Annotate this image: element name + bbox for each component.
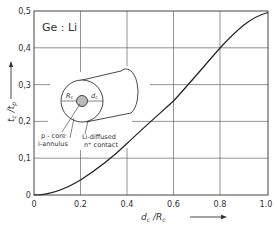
inset-pcore-label: p - core xyxy=(41,132,66,140)
svg-text:0: 0 xyxy=(31,199,36,209)
inset-dc-label: dc xyxy=(91,92,98,100)
arrow-right-icon xyxy=(221,215,227,219)
inset-rc-label: Rc xyxy=(66,92,74,100)
p-core-circle xyxy=(77,96,88,107)
svg-text:dc /Rc: dc /Rc xyxy=(141,212,166,223)
inset-detector-diagram xyxy=(61,69,138,138)
svg-text:0,4: 0,4 xyxy=(18,43,31,53)
svg-text:0.4: 0.4 xyxy=(121,199,134,209)
svg-text:0.6: 0.6 xyxy=(167,199,180,209)
svg-text:0,1: 0,1 xyxy=(18,153,31,163)
x-axis-label: dc /Rc xyxy=(141,212,227,223)
chart-title: Ge : Li xyxy=(42,21,77,34)
svg-text:0.8: 0.8 xyxy=(214,199,227,209)
y-tick-labels: 0 0,1 0,2 0,3 0,4 0,5 xyxy=(18,6,31,200)
chart: Rc dc p - core i-annulus Li-diffused n⁺ … xyxy=(0,0,277,226)
inset-lidiffused-label: Li-diffused xyxy=(82,133,116,141)
svg-text:0: 0 xyxy=(26,190,31,200)
y-axis-label: tc /tp xyxy=(6,61,18,122)
svg-text:0,2: 0,2 xyxy=(18,116,31,126)
svg-text:0.2: 0.2 xyxy=(74,199,87,209)
inset-ncontact-label: n⁺ contact xyxy=(84,141,118,149)
svg-text:1.0: 1.0 xyxy=(260,199,273,209)
inset-iannulus-label: i-annulus xyxy=(38,140,68,148)
arrow-up-icon xyxy=(9,61,13,67)
x-tick-labels: 0 0.2 0.4 0.6 0.8 1.0 xyxy=(31,199,272,209)
svg-text:0,3: 0,3 xyxy=(18,80,31,90)
svg-text:0,5: 0,5 xyxy=(18,6,31,16)
svg-text:tc /tp: tc /tp xyxy=(6,102,18,122)
